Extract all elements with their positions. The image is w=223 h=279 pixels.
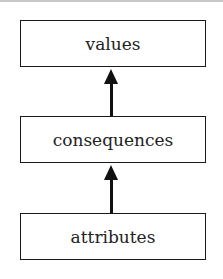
- node-label: values: [86, 34, 141, 54]
- node-attributes: attributes: [20, 213, 206, 260]
- node-values: values: [20, 20, 206, 67]
- top-border-line: [0, 0, 223, 2]
- arrow-consequences-to-values: [110, 82, 113, 116]
- node-label: consequences: [53, 130, 174, 150]
- node-consequences: consequences: [20, 116, 206, 163]
- node-label: attributes: [71, 227, 156, 247]
- arrow-attributes-to-consequences: [110, 178, 113, 213]
